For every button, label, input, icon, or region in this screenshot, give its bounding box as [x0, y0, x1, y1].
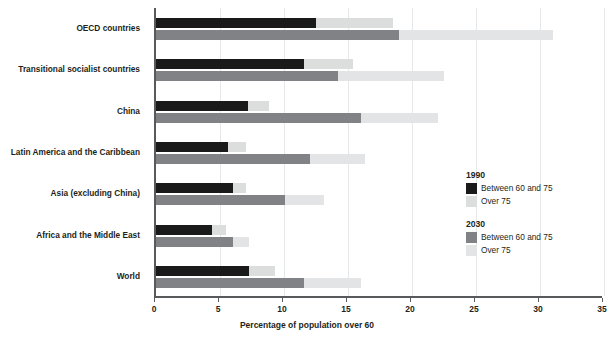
legend-entry-label: Between 60 and 75	[481, 183, 553, 194]
legend-spacer	[466, 209, 553, 219]
gridline	[604, 8, 605, 296]
bar-1990	[156, 59, 602, 69]
bar-segment-1990-over75	[249, 266, 275, 276]
legend-entry: Over 75	[466, 245, 553, 256]
bar-segment-2030-60to75	[156, 154, 310, 164]
bar-1990	[156, 18, 602, 28]
x-tick-label: 35	[587, 304, 614, 314]
tick-mark	[474, 298, 475, 302]
legend-entry-label: Over 75	[481, 196, 511, 207]
bar-segment-2030-60to75	[156, 113, 361, 123]
bar-segment-1990-over75	[248, 101, 268, 111]
bar-segment-2030-60to75	[156, 278, 304, 288]
bar-segment-1990-over75	[316, 18, 393, 28]
legend-swatch-icon	[466, 232, 477, 243]
bar-segment-2030-over75	[361, 113, 438, 123]
bar-segment-2030-over75	[310, 154, 365, 164]
category-label: World	[117, 272, 140, 280]
x-tick-label: 0	[139, 304, 169, 314]
x-tick-label: 15	[331, 304, 361, 314]
bar-2030	[156, 278, 602, 288]
legend-entry-label: Over 75	[481, 245, 511, 256]
bar-segment-1990-60to75	[156, 18, 316, 28]
bar-2030	[156, 113, 602, 123]
bar-2030	[156, 30, 602, 40]
bar-1990	[156, 266, 602, 276]
tick-mark	[410, 298, 411, 302]
legend-group-title: 1990	[466, 170, 553, 180]
category-label: China	[117, 107, 140, 115]
category-label: Latin America and the Caribbean	[11, 148, 140, 156]
gridline	[348, 8, 349, 296]
top-spacer	[0, 0, 614, 3]
category-label: Africa and the Middle East	[36, 231, 140, 239]
bar-segment-2030-60to75	[156, 195, 285, 205]
legend-group-title: 2030	[466, 219, 553, 229]
tick-mark	[154, 298, 155, 302]
gridline	[220, 8, 221, 296]
bar-segment-1990-60to75	[156, 266, 249, 276]
legend-entry: Over 75	[466, 196, 553, 207]
bar-segment-1990-over75	[228, 142, 246, 152]
chart-container: OECD countriesTransitional socialist cou…	[0, 0, 614, 337]
legend-swatch-icon	[466, 183, 477, 194]
chart-legend: 1990Between 60 and 75Over 752030Between …	[466, 170, 553, 258]
tick-mark	[346, 298, 347, 302]
category-label: Asia (excluding China)	[51, 189, 140, 197]
bar-segment-2030-over75	[399, 30, 553, 40]
category-label: OECD countries	[76, 24, 140, 32]
bar-1990	[156, 142, 602, 152]
x-axis-title: Percentage of population over 60	[0, 320, 614, 330]
gridline	[412, 8, 413, 296]
tick-mark	[218, 298, 219, 302]
bar-segment-1990-60to75	[156, 59, 304, 69]
x-tick-label: 5	[203, 304, 233, 314]
bar-segment-1990-60to75	[156, 142, 228, 152]
legend-swatch-icon	[466, 245, 477, 256]
bar-segment-1990-60to75	[156, 101, 248, 111]
legend-swatch-icon	[466, 196, 477, 207]
legend-entry-label: Between 60 and 75	[481, 232, 553, 243]
x-tick-label: 30	[523, 304, 553, 314]
bar-2030	[156, 154, 602, 164]
bar-segment-1990-over75	[304, 59, 353, 69]
bar-segment-1990-60to75	[156, 183, 233, 193]
bar-segment-2030-60to75	[156, 30, 399, 40]
x-tick-label: 25	[459, 304, 489, 314]
tick-mark	[602, 298, 603, 302]
bar-segment-2030-over75	[338, 71, 444, 81]
x-tick-label: 10	[267, 304, 297, 314]
legend-entry: Between 60 and 75	[466, 232, 553, 243]
bar-segment-2030-over75	[304, 278, 360, 288]
bar-segment-1990-60to75	[156, 225, 212, 235]
bar-1990	[156, 101, 602, 111]
bar-2030	[156, 71, 602, 81]
tick-mark	[282, 298, 283, 302]
bar-segment-2030-over75	[285, 195, 323, 205]
bar-segment-1990-over75	[212, 225, 226, 235]
bar-segment-2030-over75	[233, 237, 250, 247]
legend-entry: Between 60 and 75	[466, 183, 553, 194]
tick-mark	[538, 298, 539, 302]
bar-segment-1990-over75	[233, 183, 246, 193]
gridline	[284, 8, 285, 296]
x-tick-label: 20	[395, 304, 425, 314]
bar-segment-2030-60to75	[156, 71, 338, 81]
category-label: Transitional socialist countries	[18, 65, 140, 73]
category-axis-labels: OECD countriesTransitional socialist cou…	[0, 8, 148, 298]
bar-segment-2030-60to75	[156, 237, 233, 247]
